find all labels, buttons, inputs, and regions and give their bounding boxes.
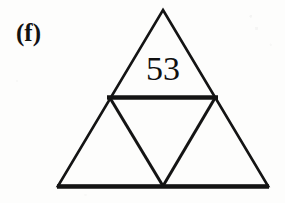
- cell-number-53: 53: [146, 50, 180, 87]
- inner-right-edge: [163, 98, 215, 186]
- inner-left-edge: [110, 98, 163, 186]
- figure-panel: (f) 53: [0, 0, 285, 203]
- triangle-diagram: 53: [0, 0, 285, 203]
